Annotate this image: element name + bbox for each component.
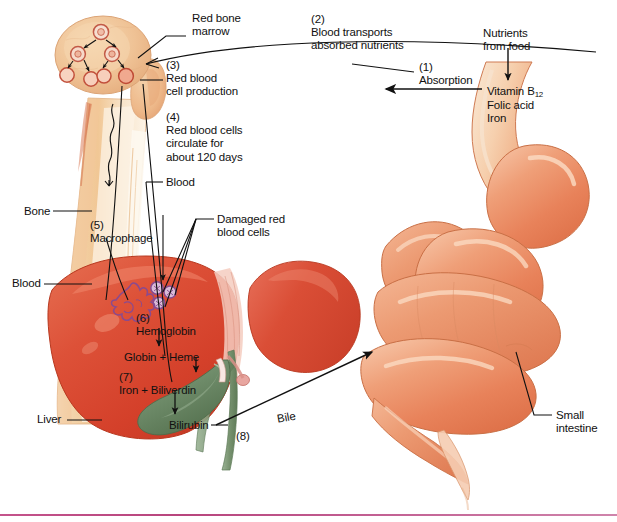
label-hemoglobin: (6) Hemoglobin: [136, 312, 196, 338]
label-bone: Bone: [24, 205, 50, 218]
label-liver: Liver: [37, 413, 61, 426]
label-blood-transports: (2) Blood transports absorbed nutrients: [311, 13, 404, 53]
label-rbc-circulate: (4) Red blood cells circulate for about …: [166, 111, 243, 164]
label-blood-lower: Blood: [12, 277, 41, 290]
label-absorption: (1) Absorption: [419, 61, 472, 87]
label-blood-upper: Blood: [166, 176, 195, 189]
label-rbc-production: (3) Red blood cell production: [166, 59, 238, 99]
diagram-canvas: Red bone marrow (2) Blood transports abs…: [0, 0, 617, 522]
label-macrophage: (5) Macrophage: [90, 219, 152, 245]
label-bilirubin: Bilirubin: [169, 419, 209, 432]
label-damaged-rbc: Damaged red blood cells: [217, 213, 285, 239]
bottom-rule-divider: [0, 514, 617, 516]
label-globin-heme: Globin + Heme: [124, 351, 199, 364]
label-nutrient-list: Vitamin B12 Folic acid Iron: [487, 85, 543, 126]
label-nutrients-from-food: Nutrients from food: [483, 27, 530, 53]
label-red-bone-marrow: Red bone marrow: [192, 12, 241, 38]
anatomy-illustration: [0, 0, 617, 522]
label-iron-biliverdin: (7) Iron + Biliverdin: [119, 371, 196, 397]
label-small-intestine: Small intestine: [556, 409, 597, 435]
label-step-eight: (8): [236, 430, 250, 443]
small-intestine-illustration: [361, 62, 589, 510]
